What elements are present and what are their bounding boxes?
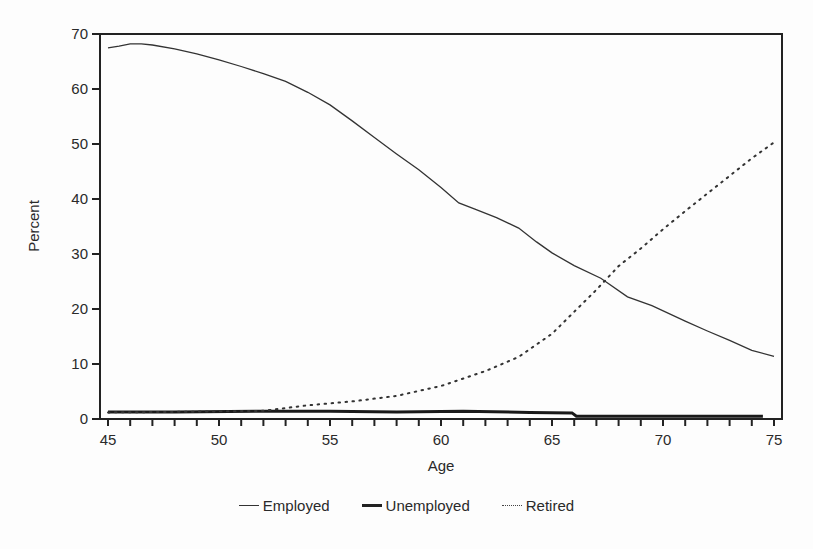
unemployed-line-swatch-icon [362, 504, 382, 507]
legend-label: Employed [263, 497, 330, 514]
y-tick-label: 20 [71, 300, 88, 317]
x-tick-label: 70 [655, 431, 672, 448]
x-tick-label: 60 [433, 431, 450, 448]
legend-item-retired: Retired [502, 497, 574, 514]
legend-item-unemployed: Unemployed [362, 497, 470, 514]
y-tick-label: 60 [71, 80, 88, 97]
x-tick-label: 75 [766, 431, 783, 448]
plot-area-frame [100, 34, 782, 419]
x-tick-label: 65 [544, 431, 561, 448]
y-tick-label: 0 [80, 410, 88, 427]
y-tick-label: 10 [71, 355, 88, 372]
legend-label: Retired [526, 497, 574, 514]
y-tick-label: 70 [71, 25, 88, 42]
retired-series-line [108, 142, 774, 412]
x-axis-title: Age [428, 457, 455, 474]
legend: Employed Unemployed Retired [0, 497, 813, 514]
y-tick-label: 30 [71, 245, 88, 262]
retired-line-swatch-icon [502, 505, 522, 506]
employed-series-line [108, 44, 774, 356]
y-tick-label: 50 [71, 135, 88, 152]
x-tick-label: 45 [100, 431, 117, 448]
y-axis-title: Percent [25, 199, 42, 252]
employed-line-swatch-icon [239, 505, 259, 506]
x-tick-label: 50 [211, 431, 228, 448]
legend-item-employed: Employed [239, 497, 330, 514]
y-tick-label: 40 [71, 190, 88, 207]
line-chart: 01020304050607045505560657075 Age Percen… [0, 0, 813, 490]
x-tick-label: 55 [322, 431, 339, 448]
legend-label: Unemployed [386, 497, 470, 514]
